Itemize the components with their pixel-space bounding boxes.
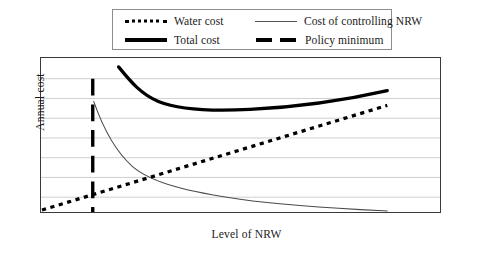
plot-area — [40, 57, 441, 213]
legend-swatch-thin-line-icon — [255, 14, 297, 28]
legend-swatch-dashed-line-icon — [256, 33, 298, 47]
y-axis-title: Annual cost — [34, 57, 46, 147]
legend-label-total-cost: Total cost — [174, 34, 220, 46]
legend-row: Water cost Cost of controlling NRW — [113, 11, 391, 31]
legend-row: Total cost Policy minimum — [113, 30, 391, 50]
legend-label-water-cost: Water cost — [174, 15, 224, 27]
chart-legend: Water cost Cost of controlling NRW Total… — [112, 9, 392, 50]
legend-label-policy-minimum: Policy minimum — [305, 34, 383, 46]
legend-label-cost-of-controlling-nrw: Cost of controlling NRW — [304, 15, 422, 27]
legend-entry-policy-minimum: Policy minimum — [252, 30, 391, 50]
x-axis-title: Level of NRW — [0, 228, 493, 240]
gridlines-horizontal — [41, 79, 440, 197]
legend-entry-water-cost: Water cost — [113, 11, 251, 31]
legend-entry-cost-of-controlling-nrw: Cost of controlling NRW — [251, 11, 391, 31]
figure-container: Water cost Cost of controlling NRW Total… — [0, 0, 493, 256]
legend-swatch-dotted-line-icon — [125, 14, 167, 28]
legend-entry-total-cost: Total cost — [113, 30, 252, 50]
chart-canvas — [41, 58, 440, 212]
series-line-total-cost — [119, 67, 388, 110]
legend-swatch-solid-line-icon — [125, 33, 167, 47]
